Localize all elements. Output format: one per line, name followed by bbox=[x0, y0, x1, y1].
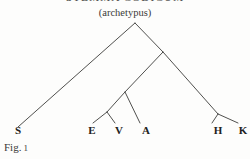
witness-label-v: V bbox=[112, 124, 126, 137]
stemma-edge-group bbox=[18, 23, 238, 127]
stemma-edge-gamma-to-delta bbox=[107, 92, 125, 112]
figure-caption: Fig.1 bbox=[4, 141, 28, 153]
stemma-edge-gamma-to-A bbox=[125, 92, 140, 123]
stemma-edge-epsilon-to-H bbox=[212, 114, 218, 123]
stemma-edge-beta-to-gamma bbox=[125, 52, 163, 92]
stemma-edge-archetype-to-beta bbox=[135, 23, 163, 52]
stemma-figure: STEMMA CODICUM (archetypus) SEVAHK Fig.1 bbox=[0, 0, 250, 159]
stemma-edge-epsilon-to-K bbox=[218, 114, 238, 123]
stemma-edge-delta-to-E bbox=[93, 112, 107, 123]
figure-caption-number: 1 bbox=[21, 143, 28, 153]
witness-label-h: H bbox=[211, 124, 225, 137]
figure-caption-prefix: Fig. bbox=[4, 141, 21, 153]
stemma-edge-delta-to-V bbox=[107, 112, 115, 123]
witness-label-a: A bbox=[139, 124, 153, 137]
stemma-edge-archetype-to-S bbox=[18, 23, 135, 127]
witness-label-e: E bbox=[85, 124, 99, 137]
witness-label-s: S bbox=[11, 124, 25, 137]
witness-label-k: K bbox=[236, 124, 250, 137]
stemma-edge-beta-to-epsilon bbox=[163, 52, 218, 114]
